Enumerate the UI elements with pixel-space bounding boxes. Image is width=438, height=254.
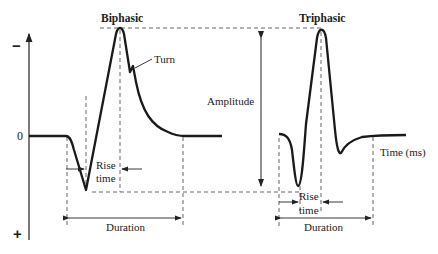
- duration-biphasic-label: Duration: [106, 221, 145, 233]
- duration-triphasic-label: Duration: [304, 221, 343, 233]
- triphasic-waveform: [279, 30, 406, 186]
- negative-symbol: −: [12, 40, 21, 52]
- biphasic-title: Biphasic: [101, 12, 143, 24]
- time-axis-label: Time (ms): [380, 146, 426, 158]
- amplitude-label: Amplitude: [207, 95, 254, 107]
- rise-time-triphasic-line1: Rise: [299, 190, 319, 202]
- waveform-diagram: [0, 0, 438, 254]
- rise-time-triphasic-line2: time: [299, 204, 319, 216]
- zero-label: 0: [17, 130, 23, 142]
- biphasic-waveform: [29, 28, 222, 190]
- rise-time-biphasic-line2: time: [96, 172, 116, 184]
- turn-label: Turn: [154, 53, 175, 65]
- rise-time-biphasic-line1: Rise: [96, 159, 116, 171]
- triphasic-title: Triphasic: [299, 12, 345, 24]
- positive-symbol: +: [13, 228, 22, 240]
